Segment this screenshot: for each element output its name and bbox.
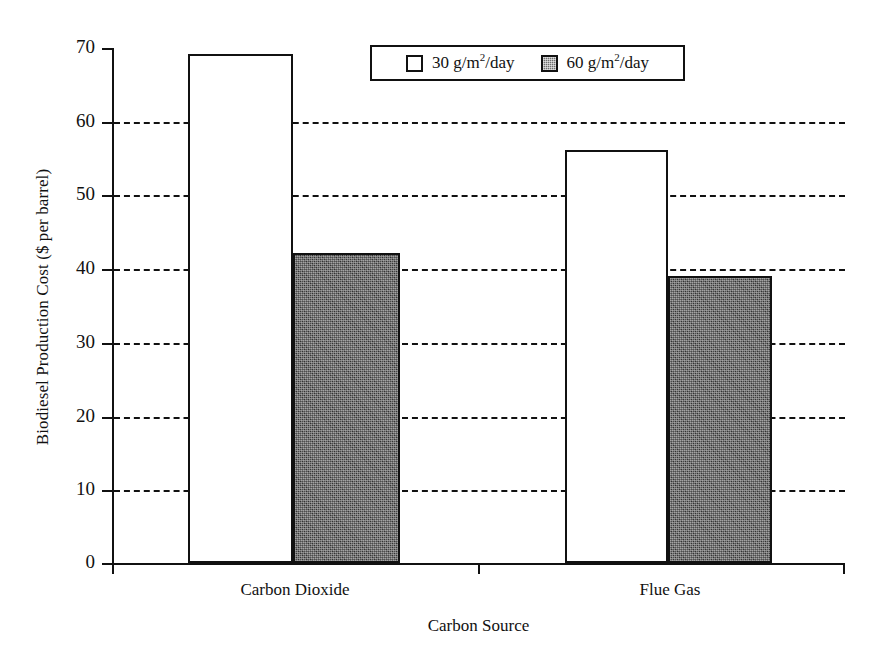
legend-entry-30: 30 g/m2/day xyxy=(406,54,514,72)
y-tick-70: 70 xyxy=(102,48,114,50)
legend-swatch-hatched-icon xyxy=(541,55,558,72)
x-axis-title: Carbon Source xyxy=(112,616,845,636)
legend-unit-post-60: /day xyxy=(620,53,649,72)
y-tick-label-30: 30 xyxy=(76,332,95,352)
plot-area: 70 60 50 40 30 20 10 0 Car xyxy=(112,48,845,564)
legend-swatch-open-icon xyxy=(406,55,423,72)
bar-chart: Biodiesel Production Cost ($ per barrel)… xyxy=(0,0,880,654)
x-tick-middle xyxy=(478,563,480,574)
legend-label-60: 60 g/m2/day xyxy=(567,54,649,72)
legend-value-60: 60 xyxy=(567,53,584,72)
bar-flue-gas-30 xyxy=(565,150,668,563)
y-tick-label-40: 40 xyxy=(76,258,95,278)
y-tick-label-60: 60 xyxy=(76,111,95,131)
legend-unit-pre-60: g/m xyxy=(584,53,615,72)
y-tick-60: 60 xyxy=(102,122,114,124)
legend-unit-post-30: /day xyxy=(485,53,514,72)
legend-unit-pre-30: g/m xyxy=(449,53,480,72)
y-tick-label-70: 70 xyxy=(76,37,95,57)
y-tick-10: 10 xyxy=(102,490,114,492)
y-axis-title: Biodiesel Production Cost ($ per barrel) xyxy=(33,97,53,517)
bar-carbon-dioxide-30 xyxy=(188,54,293,563)
legend-value-30: 30 xyxy=(432,53,449,72)
y-tick-40: 40 xyxy=(102,269,114,271)
y-tick-label-50: 50 xyxy=(76,184,95,204)
y-tick-20: 20 xyxy=(102,417,114,419)
y-tick-label-10: 10 xyxy=(76,479,95,499)
legend-label-30: 30 g/m2/day xyxy=(432,54,514,72)
y-tick-30: 30 xyxy=(102,343,114,345)
y-tick-label-0: 0 xyxy=(86,552,96,572)
x-category-label-flue-gas: Flue Gas xyxy=(640,580,701,600)
x-tick-right xyxy=(843,563,845,574)
y-axis-line xyxy=(112,48,114,565)
x-tick-left xyxy=(112,563,114,574)
legend-entry-60: 60 g/m2/day xyxy=(541,54,649,72)
x-category-label-carbon-dioxide: Carbon Dioxide xyxy=(240,580,349,600)
y-tick-50: 50 xyxy=(102,195,114,197)
bar-carbon-dioxide-60 xyxy=(293,253,400,563)
legend: 30 g/m2/day 60 g/m2/day xyxy=(370,45,685,81)
bar-flue-gas-60 xyxy=(668,276,772,564)
y-tick-label-20: 20 xyxy=(76,406,95,426)
